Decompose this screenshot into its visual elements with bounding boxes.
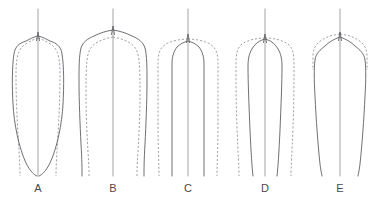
panel-label-b: B [109,182,117,194]
panel-label-a: A [34,182,42,194]
panel-labels-group: ABCDE [34,182,344,194]
panel-e [313,9,367,176]
panel-figure-svg: ABCDE [0,0,377,201]
panel-label-c: C [184,182,192,194]
panel-c [158,9,218,176]
panel-a [12,9,63,176]
panel-b [79,9,147,176]
panel-label-d: D [261,182,269,194]
figure-container: ABCDE [0,0,377,201]
panels-group [12,9,367,176]
panel-label-e: E [336,182,344,194]
panel-d [236,9,294,176]
